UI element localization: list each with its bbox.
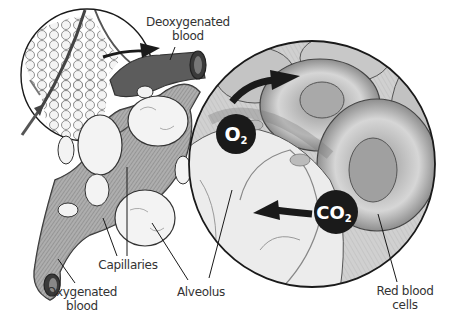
label-oxygenated-blood: Oxygenated blood <box>42 285 122 313</box>
label-alveolus: Alveolus <box>176 285 226 299</box>
label-red-blood-cells: Red blood cells <box>370 284 440 312</box>
magnified-view <box>180 30 450 300</box>
label-capillaries: Capillaries <box>98 258 158 272</box>
alveolus-sac <box>115 190 175 246</box>
illustration: O2 CO2 <box>0 0 450 329</box>
alveolus-sac <box>128 96 188 146</box>
gas-exchange-diagram: O2 CO2 Deoxygenated blood Capillaries Ox… <box>0 0 450 329</box>
alveolus-sac <box>78 115 122 175</box>
label-deoxygenated-blood: Deoxygenated blood <box>138 15 238 43</box>
